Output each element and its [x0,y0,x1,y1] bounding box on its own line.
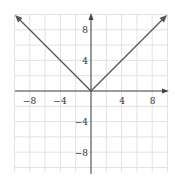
y-tick-label: 4 [82,56,88,66]
coordinate-plane: −8 −4 4 8 8 4 −4 −8 [0,0,175,179]
x-tick-label: −4 [53,96,67,106]
y-tick-label: −4 [75,117,89,127]
x-tick-label: 4 [119,96,125,106]
x-tick-label: 8 [150,96,156,106]
y-tick-label: 8 [82,25,88,35]
y-tick-label: −8 [75,148,89,158]
x-tick-label: −8 [23,96,37,106]
